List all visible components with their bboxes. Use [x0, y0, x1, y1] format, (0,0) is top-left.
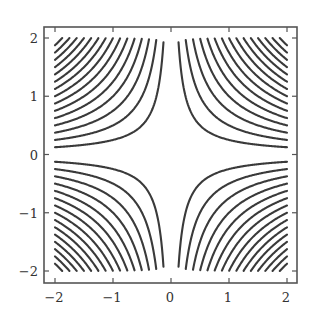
x-tick-label: 0 [166, 290, 174, 305]
x-tick-label: −2 [44, 290, 63, 305]
plot-frame [44, 27, 297, 283]
y-tick-label: −2 [19, 264, 38, 279]
contour-line [55, 39, 149, 132]
y-tick-label: −1 [19, 206, 38, 221]
contour-line [55, 176, 149, 269]
x-axis-tick-labels: −2 −1 0 1 2 [44, 290, 290, 305]
contour-plot: −2 −1 0 1 2 −2 −1 0 1 2 [0, 0, 318, 325]
x-tick-label: 1 [224, 290, 232, 305]
x-tick-label: 2 [282, 290, 290, 305]
contour-line [193, 176, 287, 269]
contour-lines [55, 38, 287, 271]
contour-line [280, 264, 287, 271]
contour-line [280, 38, 287, 45]
y-tick-label: 0 [30, 148, 38, 163]
contour-line [55, 264, 62, 271]
axis-ticks [44, 27, 297, 283]
y-tick-label: 2 [30, 31, 38, 46]
contour-line [55, 38, 62, 45]
contour-line [55, 38, 69, 53]
y-axis-tick-labels: −2 −1 0 1 2 [19, 31, 38, 279]
contour-line [55, 256, 69, 271]
contour-line [193, 39, 287, 132]
x-tick-label: −1 [102, 290, 121, 305]
y-tick-label: 1 [30, 89, 38, 104]
contour-line [273, 38, 287, 53]
contour-line [273, 256, 287, 271]
